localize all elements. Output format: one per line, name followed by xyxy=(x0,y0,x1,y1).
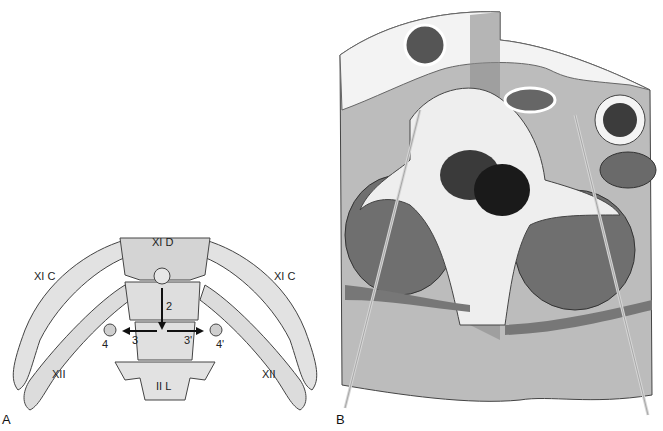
vertebra-cross-section xyxy=(330,0,663,431)
panel-b: B xyxy=(330,0,663,431)
spine-ribs-illustration xyxy=(0,220,330,431)
label-4-prime: 4' xyxy=(216,338,224,350)
panel-letter-b: B xyxy=(336,412,345,427)
label-xi-c-right: XI C xyxy=(274,270,295,282)
label-xi-d: XI D xyxy=(152,236,173,248)
panel-letter-a: A xyxy=(2,412,11,427)
label-4: 4 xyxy=(102,338,108,350)
label-xii-left: XII xyxy=(52,368,65,380)
label-3: 3 xyxy=(132,334,138,346)
panel-a: XI D XI C XI C XII XII II L 2 3 3' 4 4' … xyxy=(0,220,330,431)
label-xii-right: XII xyxy=(262,368,275,380)
label-3-prime: 3' xyxy=(184,334,192,346)
label-ii-l: II L xyxy=(156,380,171,392)
label-xi-c-left: XI C xyxy=(34,270,55,282)
label-2: 2 xyxy=(166,300,172,312)
